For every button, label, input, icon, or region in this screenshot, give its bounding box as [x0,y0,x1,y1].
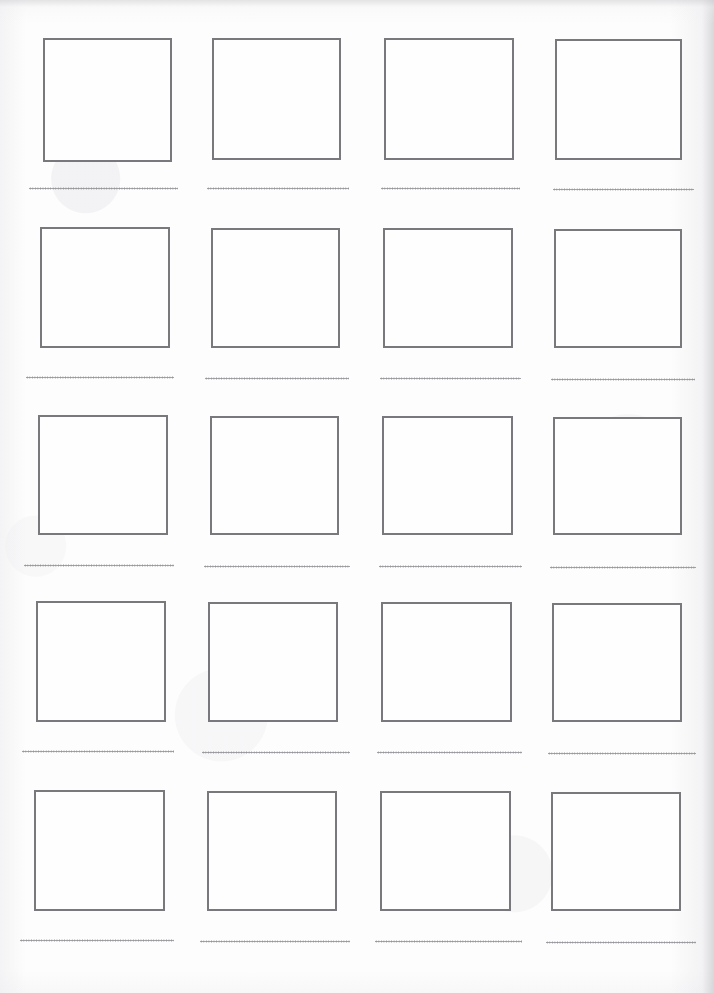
drawing-box[interactable] [43,38,172,162]
dotted-writing-line[interactable] [381,187,520,190]
worksheet-cell [210,416,339,571]
drawing-box[interactable] [211,228,340,348]
worksheet-cell [383,228,513,383]
worksheet-cell [207,791,337,946]
worksheet-cell [382,416,513,571]
drawing-box[interactable] [34,790,165,911]
dotted-writing-line[interactable] [546,941,696,944]
dotted-writing-line[interactable] [26,376,174,379]
drawing-box[interactable] [383,228,513,348]
drawing-box[interactable] [551,792,681,911]
dotted-writing-line[interactable] [205,377,349,380]
worksheet-grid [0,0,714,993]
drawing-box[interactable] [208,602,338,722]
drawing-box[interactable] [212,38,341,160]
worksheet-cell [211,228,340,383]
worksheet-cell [40,227,170,382]
worksheet-cell [34,790,165,945]
dotted-writing-line[interactable] [20,939,174,942]
drawing-box[interactable] [380,791,511,911]
worksheet-cell [554,229,682,384]
drawing-box[interactable] [207,791,337,911]
worksheet-cell [36,601,166,756]
worksheet-cell [552,603,682,758]
worksheet-cell [208,602,338,757]
drawing-box[interactable] [40,227,170,348]
dotted-writing-line[interactable] [380,377,521,380]
drawing-box[interactable] [382,416,513,535]
dotted-writing-line[interactable] [553,188,694,191]
dotted-writing-line[interactable] [375,940,522,943]
drawing-box[interactable] [384,38,514,160]
dotted-writing-line[interactable] [202,751,350,754]
dotted-writing-line[interactable] [29,187,178,190]
dotted-writing-line[interactable] [200,940,350,943]
worksheet-cell [555,39,682,194]
worksheet-cell [551,792,681,947]
drawing-box[interactable] [38,415,168,535]
drawing-box[interactable] [210,416,339,535]
worksheet-cell [212,38,341,193]
dotted-writing-line[interactable] [377,751,522,754]
worksheet-cell [553,417,682,572]
worksheet-cell [381,602,512,757]
worksheet-cell [380,791,511,946]
drawing-box[interactable] [36,601,166,722]
worksheet-cell [38,415,168,570]
drawing-box[interactable] [554,229,682,348]
drawing-box[interactable] [552,603,682,722]
worksheet-cell [384,38,514,193]
dotted-writing-line[interactable] [204,565,350,568]
dotted-writing-line[interactable] [379,565,522,568]
dotted-writing-line[interactable] [22,750,174,753]
worksheet-page [0,0,714,993]
dotted-writing-line[interactable] [207,187,349,190]
worksheet-cell [43,38,172,193]
dotted-writing-line[interactable] [551,378,695,381]
drawing-box[interactable] [553,417,682,535]
dotted-writing-line[interactable] [24,564,174,567]
dotted-writing-line[interactable] [550,566,696,569]
drawing-box[interactable] [555,39,682,160]
drawing-box[interactable] [381,602,512,722]
dotted-writing-line[interactable] [548,752,696,755]
